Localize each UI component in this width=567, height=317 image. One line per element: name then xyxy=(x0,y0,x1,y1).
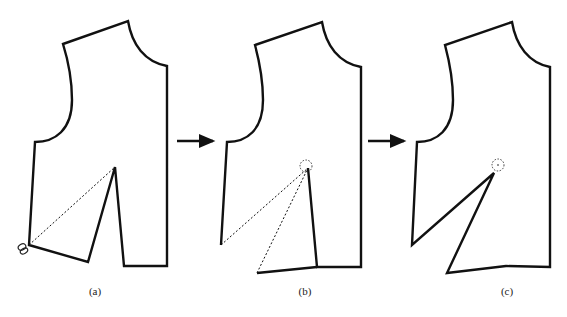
panel-a-label: (a) xyxy=(89,285,101,297)
panel-c-pattern xyxy=(412,22,550,273)
panel-b-dashed-lines xyxy=(221,168,308,273)
panel-a-cut-line xyxy=(29,167,115,245)
panel-b-label: (b) xyxy=(299,285,312,297)
diagram-canvas: (a) (b) (c) xyxy=(0,0,567,317)
scissors-icon xyxy=(17,242,29,255)
panel-c-label: (c) xyxy=(501,285,513,297)
panel-b-pattern xyxy=(221,22,361,273)
panel-a-pattern xyxy=(29,21,167,266)
